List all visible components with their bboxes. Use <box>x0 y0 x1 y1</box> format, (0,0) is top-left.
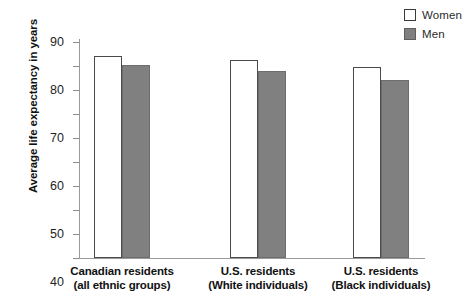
x-axis-line <box>79 258 425 259</box>
legend-label-men: Men <box>422 28 445 40</box>
legend-item-men: Men <box>404 25 471 42</box>
y-tick-mark: 80 <box>73 66 79 67</box>
bar-women-group-3 <box>353 67 381 258</box>
y-axis-line <box>79 39 80 258</box>
y-tick-mark: 90 <box>73 42 79 43</box>
legend-item-women: Women <box>404 6 471 23</box>
y-tick-label: 80 <box>50 83 64 97</box>
y-tick-mark: 10 <box>73 234 79 235</box>
bar-men-group-1 <box>122 65 150 258</box>
y-tick-mark: 60 <box>73 114 79 115</box>
bar-men-group-2 <box>258 71 286 258</box>
chart-legend: Women Men <box>404 6 471 44</box>
x-axis-label-group-2: U.S. residents(White individuals) <box>188 264 328 292</box>
plot-area: 0102030405060708090 <box>79 42 425 258</box>
y-tick-label: 60 <box>50 179 64 193</box>
y-tick-mark: 0 <box>73 258 79 259</box>
legend-swatch-women-icon <box>404 9 416 21</box>
bar-women-group-1 <box>94 56 122 258</box>
y-tick-label: 70 <box>50 131 64 145</box>
x-axis-label-group-3: U.S. residents(Black individuals) <box>311 264 451 292</box>
bar-women-group-2 <box>230 60 258 258</box>
x-axis-label-group-1: Canadian residents(all ethnic groups) <box>52 264 192 292</box>
y-tick-mark: 70 <box>73 90 79 91</box>
legend-swatch-men-icon <box>404 28 416 40</box>
y-tick-mark: 30 <box>73 186 79 187</box>
y-tick-label: 50 <box>50 227 64 241</box>
y-axis-title: Average life expectancy in years <box>27 16 39 196</box>
bar-men-group-3 <box>381 80 409 258</box>
y-tick-mark: 20 <box>73 210 79 211</box>
y-tick-mark: 50 <box>73 138 79 139</box>
y-tick-label: 90 <box>50 35 64 49</box>
legend-label-women: Women <box>422 9 462 21</box>
y-tick-mark: 40 <box>73 162 79 163</box>
